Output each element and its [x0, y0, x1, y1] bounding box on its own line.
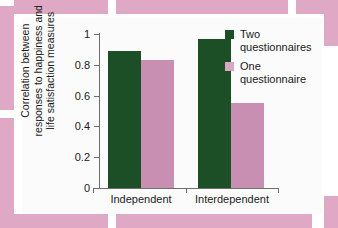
legend-label-one-questionnaire-line1: One — [240, 60, 261, 72]
legend-label-two-questionnaires: Two questionnaires — [240, 28, 312, 53]
legend-swatch-green-icon — [225, 30, 234, 39]
y-tick-label-1: 1 — [62, 29, 90, 40]
y-axis-title-line-3: life satisfaction measures — [44, 0, 57, 151]
legend-label-two-questionnaires-line1: Two — [240, 28, 260, 40]
y-tick-label-0.6-wrap: 0.6 — [62, 91, 90, 102]
y-tick-0.8 — [94, 65, 99, 66]
y-axis-title: Correlation between responses to happine… — [19, 0, 57, 151]
y-tick-1 — [94, 34, 99, 35]
y-tick-0.4 — [94, 126, 99, 127]
y-tick-label-0.2: 0.2 — [62, 152, 90, 163]
y-tick-label-1-wrap: 1 — [62, 29, 90, 40]
legend-label-one-questionnaire-line2: questionnaire — [240, 73, 306, 85]
y-tick-label-0.2-wrap: 0.2 — [62, 152, 90, 163]
y-tick-label-0.8: 0.8 — [62, 60, 90, 71]
bar-interdependent-one-questionnaire[interactable] — [231, 103, 264, 188]
bar-independent-two-questionnaires[interactable] — [108, 51, 141, 188]
bar-chart: 0 0.2 0.4 0.6 0.8 1 Correlation between … — [0, 0, 338, 228]
y-tick-label-0: 0 — [62, 183, 90, 194]
y-tick-label-0.6: 0.6 — [62, 91, 90, 102]
y-tick-0.2 — [94, 157, 99, 158]
legend-item-two-questionnaires[interactable]: Two questionnaires — [225, 28, 333, 53]
y-axis-title-line-2: responses to happiness and — [32, 0, 45, 151]
y-tick-label-0-wrap: 0 — [62, 183, 90, 194]
legend-swatch-pink-icon — [225, 62, 234, 71]
legend: Two questionnaires One questionnaire — [225, 28, 333, 92]
bar-independent-one-questionnaire[interactable] — [141, 60, 174, 188]
figure-container: 0 0.2 0.4 0.6 0.8 1 Correlation between … — [0, 0, 338, 228]
legend-label-one-questionnaire: One questionnaire — [240, 60, 306, 85]
y-tick-0 — [94, 188, 99, 189]
legend-label-two-questionnaires-line2: questionnaires — [240, 41, 312, 53]
x-tick-label-interdependent: Interdependent — [184, 193, 280, 206]
y-axis-title-line-1: Correlation between — [19, 0, 32, 151]
legend-item-one-questionnaire[interactable]: One questionnaire — [225, 60, 333, 85]
x-tick-left — [93, 188, 94, 193]
y-tick-label-0.4-wrap: 0.4 — [62, 121, 90, 132]
x-tick-label-independent: Independent — [95, 193, 187, 206]
y-tick-label-0.8-wrap: 0.8 — [62, 60, 90, 71]
y-tick-label-0.4: 0.4 — [62, 121, 90, 132]
y-tick-0.6 — [94, 96, 99, 97]
